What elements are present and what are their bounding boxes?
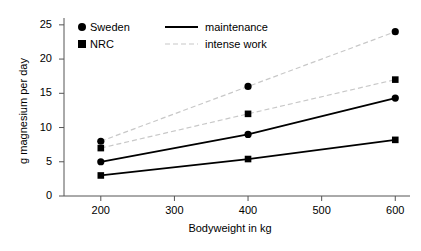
y-tick-label-0: 0 xyxy=(26,189,52,201)
y-tick-label-15: 15 xyxy=(26,86,52,98)
x-tick-label-600: 600 xyxy=(375,204,415,216)
x-tick-label-200: 200 xyxy=(81,204,121,216)
legend-label-sweden: Sweden xyxy=(90,21,130,33)
marker-1-0 xyxy=(98,145,105,152)
marker-0-1 xyxy=(244,83,251,90)
x-tick-label-300: 300 xyxy=(154,204,194,216)
marker-1-2 xyxy=(392,76,399,83)
y-tick-label-20: 20 xyxy=(26,52,52,64)
x-tick-label-400: 400 xyxy=(228,204,268,216)
legend-label-intense-work: intense work xyxy=(205,38,267,50)
marker-3-0 xyxy=(98,172,105,179)
x-axis-title: Bodyweight in kg xyxy=(100,222,360,234)
series-markers xyxy=(97,28,399,179)
legend-square-marker-icon xyxy=(78,40,86,48)
magnesium-requirement-chart: 0510152025 200300400500600 g magnesium p… xyxy=(0,0,421,251)
legend-label-nrc: NRC xyxy=(90,38,114,50)
series-line-2 xyxy=(101,98,395,162)
y-axis-title: g magnesium per day xyxy=(17,31,29,191)
marker-1-1 xyxy=(245,111,252,118)
legend-circle-marker-icon xyxy=(78,23,86,31)
x-axis-ticks xyxy=(101,196,395,201)
y-axis-ticks xyxy=(59,25,64,196)
marker-0-2 xyxy=(392,28,399,35)
y-tick-label-10: 10 xyxy=(26,121,52,133)
marker-2-0 xyxy=(97,158,104,165)
y-tick-label-25: 25 xyxy=(26,18,52,30)
y-tick-label-5: 5 xyxy=(26,155,52,167)
marker-0-0 xyxy=(97,138,104,145)
marker-3-2 xyxy=(392,137,399,144)
legend-label-maintenance: maintenance xyxy=(205,21,268,33)
series-lines xyxy=(101,32,395,176)
marker-2-2 xyxy=(392,95,399,102)
x-tick-label-500: 500 xyxy=(302,204,342,216)
marker-2-1 xyxy=(244,131,251,138)
marker-3-1 xyxy=(245,156,252,163)
